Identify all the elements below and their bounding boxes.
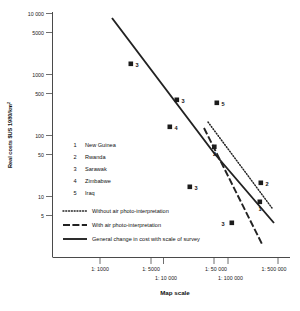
y-axis-title: Real costs $US 1980/km2 — [7, 102, 13, 168]
y-tick-label: 100 — [35, 133, 44, 139]
y-tick-label: 5 — [41, 213, 44, 219]
line-key-label: General change in cost with scale of sur… — [92, 236, 200, 242]
country-key-label: Iraq — [85, 190, 95, 196]
line-key-label: Without air photo-interpretation — [92, 208, 169, 214]
trendline-general — [112, 18, 274, 223]
y-tick-label: 10 000 — [28, 11, 44, 17]
data-point-label: 2 — [213, 151, 216, 157]
country-key: 1 New Guinea 2 Rwanda 3 Sarawak 4 Zimbab… — [73, 142, 116, 196]
y-tick-label: 10 — [38, 194, 44, 200]
data-point-marker — [175, 98, 180, 103]
y-tick-label: 500 — [35, 91, 44, 97]
country-key-number: 1 — [73, 142, 76, 148]
country-key-number: 2 — [73, 154, 76, 160]
country-key-label: Sarawak — [85, 166, 107, 172]
data-point-label: 3 — [195, 185, 198, 191]
data-point-label: 3 — [182, 98, 185, 104]
data-point-marker — [259, 181, 264, 186]
data-point-marker — [168, 125, 173, 130]
line-style-key: Without air photo-interpretation With ai… — [63, 208, 200, 242]
y-axis-title-text: Real costs $US 1980/km — [7, 104, 13, 168]
data-point-marker — [129, 62, 134, 67]
svg-text:Real costs $US 1980/km2: Real costs $US 1980/km2 — [7, 102, 13, 168]
country-key-number: 4 — [73, 178, 76, 184]
x-axis-ticks: 1: 1000 1: 5000 1: 10 000 1: 50 000 1: 1… — [91, 258, 286, 281]
line-key-label: With air photo-interpretation — [92, 222, 161, 228]
country-key-label: New Guinea — [85, 142, 117, 148]
data-point-marker — [212, 145, 217, 150]
data-point-label: 1 — [259, 206, 262, 212]
data-point-label: 5 — [222, 101, 225, 107]
y-tick-label: 1000 — [32, 72, 44, 78]
country-key-number: 5 — [73, 190, 76, 196]
data-point-marker — [230, 221, 235, 226]
trendline-without-photo — [208, 122, 272, 208]
data-point-label: 4 — [175, 125, 179, 131]
x-tick-label: 1: 5000 — [142, 266, 160, 272]
x-tick-label: 1: 500 000 — [261, 266, 286, 272]
data-point-marker — [188, 185, 193, 190]
data-point-label: 3 — [136, 62, 139, 68]
country-key-number: 3 — [73, 166, 76, 172]
y-axis-title-sup: 2 — [7, 102, 11, 104]
data-point-label: 3 — [222, 221, 225, 227]
x-tick-label: 1: 100 000 — [218, 275, 243, 281]
x-tick-label: 1: 1000 — [91, 266, 109, 272]
data-point-marker — [215, 101, 220, 106]
y-tick-label: 50 — [38, 152, 44, 158]
country-key-label: Zimbabwe — [85, 178, 111, 184]
x-axis-title: Map scale — [160, 289, 190, 296]
data-points: 3 3 5 4 2 3 2 1 3 — [129, 62, 269, 227]
chart-figure: 10 000 5000 1000 500 100 50 10 5 Real co… — [0, 0, 300, 311]
data-point-label: 2 — [266, 181, 269, 187]
y-tick-label: 5000 — [32, 30, 44, 36]
x-tick-label: 1: 10 000 — [155, 275, 177, 281]
y-axis-ticks: 10 000 5000 1000 500 100 50 10 5 — [28, 11, 53, 219]
x-tick-label: 1: 50 000 — [205, 266, 227, 272]
chart-svg: 10 000 5000 1000 500 100 50 10 5 Real co… — [0, 0, 300, 311]
country-key-label: Rwanda — [85, 154, 106, 160]
axes — [53, 12, 291, 258]
data-point-marker — [258, 200, 263, 205]
